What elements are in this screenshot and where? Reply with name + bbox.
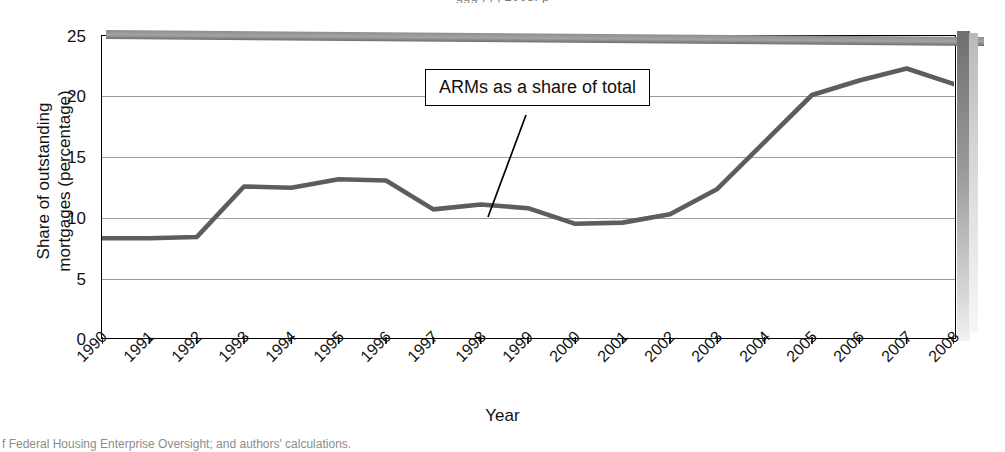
y-tick-10: 10 bbox=[52, 210, 86, 227]
y-tick-25: 25 bbox=[52, 28, 86, 45]
bottom-caption-remnant: f Federal Housing Enterprise Oversight; … bbox=[2, 437, 642, 452]
y-tick-15: 15 bbox=[52, 149, 86, 166]
annotation-callout: ARMs as a share of total bbox=[425, 69, 650, 106]
y-tick-20: 20 bbox=[52, 88, 86, 105]
top-caption-remnant: ggg , , , 2008. p bbox=[0, 0, 1005, 3]
y-tick-5: 5 bbox=[52, 271, 86, 288]
figure-container: ggg , , , 2008. p Share of outstanding m… bbox=[0, 0, 1005, 452]
y-tick-labels: 25 20 15 10 5 0 bbox=[44, 0, 86, 452]
scan-shadow-right-soft bbox=[969, 33, 978, 333]
x-axis-title: Year bbox=[0, 406, 1005, 426]
